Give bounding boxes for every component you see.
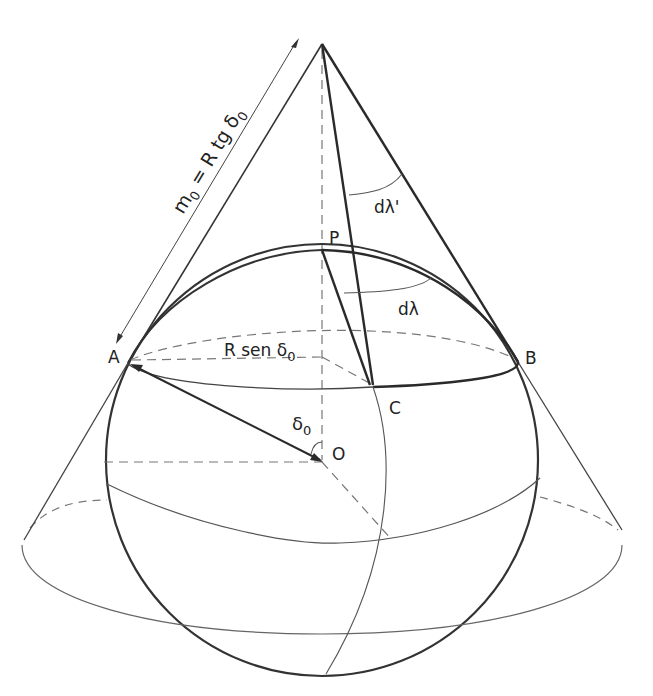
label-point-O: O xyxy=(332,444,345,464)
label-point-B: B xyxy=(525,348,537,368)
line-apex-C xyxy=(322,44,373,385)
cone-base-back-left xyxy=(30,500,107,528)
cone-generator-left-upper xyxy=(128,44,322,363)
cone-base-back-right xyxy=(540,497,618,530)
label-dlambda-prime: dλ' xyxy=(374,197,400,217)
label-point-P: P xyxy=(329,228,339,248)
arrow-down-icon xyxy=(116,333,123,344)
arrow-up-icon xyxy=(291,38,299,48)
cone-sphere-diagram: m0 = R tg δ0 dλ' dλ P A B C O R sen δ0 δ… xyxy=(0,0,653,696)
parallel-back xyxy=(130,330,518,360)
label-radius-parallel: R sen δ0 xyxy=(224,340,295,364)
label-point-A: A xyxy=(108,347,120,367)
label-dlambda: dλ xyxy=(398,299,419,319)
slant-dimension-line xyxy=(118,42,296,340)
angle-arc-dlambda-prime xyxy=(349,174,402,195)
label-angle-delta0: δ0 xyxy=(292,413,311,438)
label-point-C: C xyxy=(389,398,401,418)
meridian-front xyxy=(326,387,386,674)
parallel-front-arc-CB xyxy=(373,362,518,387)
angle-arc-delta0 xyxy=(311,442,322,454)
arrow-O-icon xyxy=(310,453,323,462)
parallel-front-thin xyxy=(128,364,373,389)
cone-base-front xyxy=(22,545,622,634)
label-slant: m0 = R tg δ0 xyxy=(168,103,252,219)
cone-generator-right-upper xyxy=(322,44,518,362)
lower-parallel xyxy=(107,478,540,543)
